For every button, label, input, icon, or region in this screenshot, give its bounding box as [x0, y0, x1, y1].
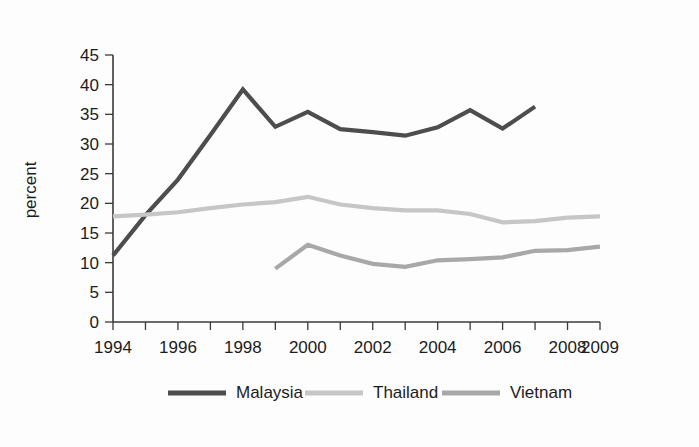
chart-canvas: 051015202530354045 199419961998200020022…	[0, 0, 699, 447]
y-tick-label: 0	[90, 313, 99, 332]
legend-label-malaysia: Malaysia	[236, 383, 304, 402]
y-tick-label: 40	[80, 76, 99, 95]
y-tick-label: 45	[80, 46, 99, 65]
y-tick-label: 20	[80, 194, 99, 213]
line-chart-figure: 051015202530354045 199419961998200020022…	[0, 0, 699, 447]
x-tick-label: 2000	[289, 338, 327, 357]
x-tick-label: 1996	[159, 338, 197, 357]
chart-background	[0, 0, 699, 447]
x-tick-label: 2006	[484, 338, 522, 357]
y-tick-label: 10	[80, 254, 99, 273]
y-axis-title: percent	[21, 161, 40, 218]
x-tick-label: 1994	[94, 338, 132, 357]
x-tick-label: 2009	[581, 338, 619, 357]
x-tick-label: 2002	[354, 338, 392, 357]
legend-label-thailand: Thailand	[373, 383, 438, 402]
y-tick-label: 15	[80, 224, 99, 243]
y-tick-label: 30	[80, 135, 99, 154]
y-tick-label: 5	[90, 283, 99, 302]
legend-label-vietnam: Vietnam	[510, 383, 572, 402]
x-tick-label: 2004	[419, 338, 457, 357]
x-tick-label: 1998	[224, 338, 262, 357]
y-tick-label: 35	[80, 105, 99, 124]
y-tick-label: 25	[80, 165, 99, 184]
